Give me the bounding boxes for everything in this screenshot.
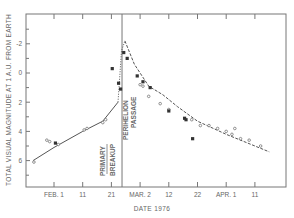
- data-point-filled: [184, 118, 187, 121]
- data-point-open: [57, 143, 60, 146]
- annotation-primary: PRIMARY: [99, 146, 106, 176]
- data-point-open: [104, 118, 107, 121]
- x-tick-label: 22: [194, 191, 202, 198]
- x-axis-ticks: FEB. 11121MAR. 21222APR. 111: [44, 14, 259, 198]
- data-point-open: [259, 145, 262, 148]
- data-point-filled: [141, 80, 144, 83]
- data-point-open: [83, 129, 86, 132]
- data-point-filled: [191, 137, 194, 140]
- data-point-open: [147, 95, 150, 98]
- annotation-breakup: BREAKUP: [109, 143, 116, 176]
- data-point-open: [225, 130, 228, 133]
- y-tick-label: 2: [18, 99, 22, 106]
- data-point-filled: [136, 74, 139, 77]
- x-tick-label: 12: [165, 191, 173, 198]
- data-point-open: [239, 137, 242, 140]
- data-point-open: [33, 161, 36, 164]
- y-axis-label: TOTAL VISUAL MAGNITUDE AT 1 A.U. FROM EA…: [5, 14, 12, 186]
- data-point-open: [46, 139, 49, 142]
- plot-frame: [26, 14, 286, 187]
- data-point-filled: [126, 57, 129, 60]
- data-point-filled: [122, 51, 125, 54]
- x-tick-label: MAR. 2: [129, 191, 151, 198]
- data-point-open: [216, 127, 219, 130]
- data-point-filled: [167, 109, 170, 112]
- data-point-open: [159, 102, 162, 105]
- y-tick-label: 4: [18, 128, 22, 135]
- data-point-filled: [117, 82, 120, 85]
- data-point-filled: [119, 87, 122, 90]
- x-tick-label: 11: [252, 191, 259, 198]
- x-tick-label: 21: [108, 191, 116, 198]
- data-point-open: [101, 121, 104, 124]
- data-point-open: [208, 124, 211, 127]
- x-tick-label: APR. 1: [216, 191, 237, 198]
- data-point-open: [142, 85, 145, 88]
- y-tick-label: -2: [16, 40, 22, 47]
- data-point-open: [48, 140, 51, 143]
- x-axis-label: DATE 1976: [134, 205, 171, 212]
- fit-line: [125, 41, 269, 152]
- data-point-filled: [111, 67, 114, 70]
- data-point-open: [234, 127, 237, 130]
- x-tick-label: 11: [79, 191, 86, 198]
- y-tick-label: 0: [18, 69, 22, 76]
- y-tick-label: 6: [18, 157, 22, 164]
- y-axis-ticks: -20246: [16, 29, 30, 175]
- annotation-perihelion: PERIHELION: [122, 100, 129, 140]
- data-point-open: [190, 118, 193, 121]
- fit-line: [118, 41, 125, 102]
- magnitude-chart: -20246 FEB. 11121MAR. 21222APR. 111 TOTA…: [0, 0, 294, 218]
- data-point-open: [199, 124, 202, 127]
- data-point-open: [231, 133, 234, 136]
- data-point-open: [86, 127, 89, 130]
- data-point-filled: [149, 86, 152, 89]
- annotation-passage: PASSAGE: [130, 96, 137, 128]
- data-series: [33, 41, 270, 163]
- data-point-filled: [54, 141, 57, 144]
- data-point-open: [248, 139, 251, 142]
- x-tick-label: FEB. 1: [44, 191, 64, 198]
- data-point-open: [139, 83, 142, 86]
